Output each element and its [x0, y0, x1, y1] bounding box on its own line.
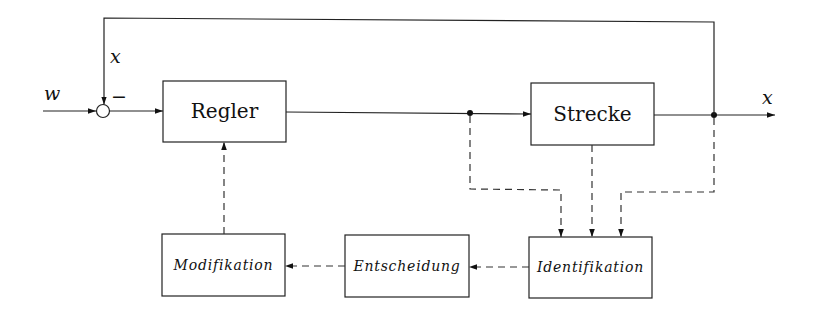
control-signal-junction — [467, 110, 473, 116]
controller-label: Regler — [191, 99, 259, 123]
minus-sign: − — [111, 85, 127, 107]
adaptive-control-diagram: Regler Strecke w x − x Identifikation En… — [0, 0, 817, 322]
output-label: x — [762, 86, 773, 108]
plant-label: Strecke — [553, 102, 631, 126]
control-signal-line — [286, 112, 531, 114]
summing-junction — [97, 105, 110, 118]
modification-label: Modifikation — [173, 257, 274, 273]
identification-label: Identifikation — [536, 259, 644, 275]
reference-label: w — [44, 82, 60, 104]
feedback-label: x — [110, 45, 121, 67]
decision-label: Entscheidung — [352, 258, 460, 274]
